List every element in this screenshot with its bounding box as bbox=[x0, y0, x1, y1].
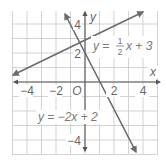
equation-label-1-numerator: 1 bbox=[117, 36, 122, 46]
equation-label-2: y = −2x + 2 bbox=[37, 110, 98, 124]
equation-label-1-rhs: x + 3 bbox=[125, 39, 153, 53]
line-y-neg2x-plus-2 bbox=[65, 14, 136, 152]
origin-label: O bbox=[72, 84, 81, 98]
y-tick-label: 4 bbox=[74, 18, 81, 32]
x-tick-label: 2 bbox=[111, 84, 118, 98]
x-tick-label: −2 bbox=[49, 84, 63, 98]
x-tick-label: 4 bbox=[140, 84, 147, 98]
y-tick-label: 2 bbox=[74, 47, 81, 61]
y-axis-label: y bbox=[89, 10, 97, 24]
coordinate-plane: −4−224O42−4xyy =12x + 3y = −2x + 2 bbox=[0, 0, 166, 163]
y-tick-label: −4 bbox=[67, 134, 81, 148]
axes bbox=[14, 12, 160, 151]
tick-labels: −4−224O42−4xyy =12x + 3y = −2x + 2 bbox=[19, 10, 158, 148]
x-axis-label: x bbox=[149, 65, 157, 79]
equation-label-1-lhs: y = bbox=[92, 39, 109, 53]
x-tick-label: −4 bbox=[20, 84, 34, 98]
equation-label-1-denominator: 2 bbox=[117, 47, 122, 57]
